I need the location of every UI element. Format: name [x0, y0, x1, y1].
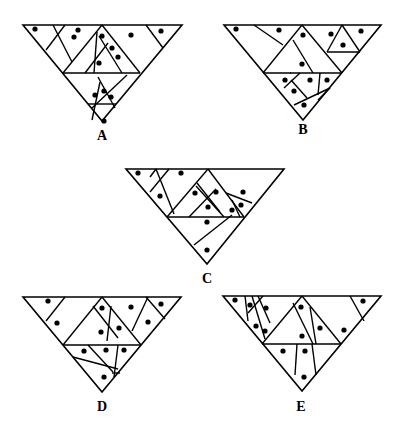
figure-label-d: D [97, 400, 107, 414]
dot-marker [121, 347, 126, 352]
dot-marker [291, 88, 296, 93]
dot-marker [247, 302, 252, 307]
partition-line [93, 306, 118, 338]
dot-marker [45, 298, 50, 303]
dot-marker [213, 189, 218, 194]
dot-marker [145, 319, 150, 324]
dot-marker [301, 102, 306, 107]
dot-marker [204, 247, 209, 252]
partition-line [245, 296, 248, 321]
partition-line [92, 75, 127, 108]
triangle-figure-d [23, 297, 181, 392]
dot-marker [276, 27, 281, 32]
dot-marker [358, 28, 363, 33]
triangle-figure-e [223, 296, 381, 391]
partition-line [293, 40, 313, 73]
dot-marker [157, 193, 162, 198]
dot-marker [101, 118, 106, 123]
partition-line [146, 25, 163, 48]
dot-marker [253, 323, 258, 328]
partition-line [63, 297, 102, 345]
partition-line [295, 344, 297, 375]
dot-marker [99, 33, 104, 38]
figure-label-a: A [97, 129, 107, 143]
dot-marker [280, 348, 285, 353]
dot-marker [32, 26, 37, 31]
dot-marker [158, 301, 163, 306]
dot-marker [98, 329, 103, 334]
dot-marker [128, 304, 133, 309]
partition-line [132, 297, 148, 331]
dot-marker [340, 42, 345, 47]
partition-line [107, 306, 111, 341]
dot-marker [205, 204, 210, 209]
triangle-figure-b [224, 25, 381, 120]
dot-marker [192, 190, 197, 195]
dot-marker [75, 27, 80, 32]
figure-canvas [0, 0, 403, 435]
dot-marker [307, 77, 312, 82]
dot-marker [101, 88, 106, 93]
figure-label-e: E [296, 400, 305, 414]
partition-line [73, 357, 118, 369]
dot-marker [109, 45, 114, 50]
partition-line [150, 169, 156, 177]
dot-marker [229, 207, 234, 212]
dot-marker [115, 54, 120, 59]
dot-marker [99, 305, 104, 310]
dot-marker [324, 77, 329, 82]
partition-line [318, 88, 330, 100]
partition-line [53, 25, 72, 62]
dot-marker [341, 327, 346, 332]
dot-marker [238, 202, 243, 207]
partition-line [88, 345, 113, 372]
dot-marker [71, 34, 76, 39]
dot-marker [300, 32, 305, 37]
partition-line [263, 25, 302, 73]
dot-marker [262, 328, 267, 333]
partition-line [114, 345, 118, 377]
dot-marker [54, 320, 59, 325]
partition-line [312, 344, 316, 375]
dot-marker [128, 32, 133, 37]
dot-marker [96, 60, 101, 65]
partition-line [196, 186, 224, 217]
dot-marker [135, 170, 140, 175]
dot-marker [101, 374, 106, 379]
partition-line [327, 25, 342, 52]
partition-line [94, 32, 97, 73]
dot-marker [299, 61, 304, 66]
dot-marker [178, 170, 183, 175]
partition-line [342, 25, 360, 52]
dot-marker [232, 297, 237, 302]
dot-marker [302, 348, 307, 353]
dot-marker [116, 325, 121, 330]
dot-marker [81, 348, 86, 353]
dot-marker [103, 347, 108, 352]
dot-marker [328, 31, 333, 36]
dot-marker [240, 189, 245, 194]
partition-line [146, 297, 165, 319]
triangle-figure-c [126, 169, 284, 264]
dot-marker [360, 298, 365, 303]
dot-marker [301, 374, 306, 379]
partition-line [318, 73, 320, 95]
partition-line [302, 296, 341, 344]
partition-line [294, 88, 330, 105]
dot-marker [282, 77, 287, 82]
dot-marker [298, 304, 303, 309]
dot-marker [92, 92, 97, 97]
dot-marker [299, 333, 304, 338]
dot-marker [233, 26, 238, 31]
dot-marker [263, 305, 268, 310]
figure-label-b: B [298, 123, 307, 137]
dot-marker [317, 325, 322, 330]
dot-marker [158, 28, 163, 33]
dot-marker [204, 219, 209, 224]
figure-label-c: C [202, 272, 212, 286]
dot-marker [108, 94, 113, 99]
triangle-figure-a [23, 25, 182, 124]
